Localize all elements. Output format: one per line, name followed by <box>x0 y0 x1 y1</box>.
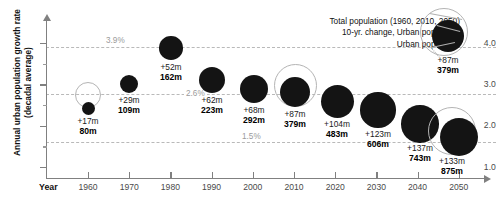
legend-sample-labels: +87m379m <box>418 55 478 75</box>
urban-population-bubble-1970[interactable] <box>120 75 138 93</box>
change-value-1990: +62m <box>182 95 242 105</box>
y-axis-title: Annual urban population growth rate (dec… <box>12 8 33 158</box>
x-tick-label-2030: 2030 <box>356 182 396 192</box>
y-tick <box>40 167 46 168</box>
change-value-2040: +137m <box>390 143 450 153</box>
urban-population-bubble-1980[interactable] <box>159 36 183 60</box>
urban-population-bubble-1960[interactable] <box>82 102 95 115</box>
x-tick-label-2050: 2050 <box>439 182 479 192</box>
total-value-1970: 109m <box>99 105 159 115</box>
x-tick <box>253 172 254 179</box>
change-value-2030: +123m <box>348 129 408 139</box>
y-axis-arrow-icon <box>43 14 51 21</box>
x-tick-label-1990: 1990 <box>192 182 232 192</box>
x-tick-label-1980: 1980 <box>150 182 190 192</box>
x-tick <box>376 172 377 179</box>
x-tick <box>212 172 213 179</box>
reference-line-label-1.5%: 1.5% <box>240 132 263 141</box>
data-label-1960: +17m80m <box>58 116 118 136</box>
y-tick <box>40 84 46 85</box>
legend-total-value: 379m <box>418 65 478 75</box>
total-value-2050: 875m <box>422 166 482 176</box>
data-label-1980: +52m162m <box>141 62 201 82</box>
urban-population-bubble-2020[interactable] <box>321 85 354 118</box>
total-value-1980: 162m <box>141 72 201 82</box>
y-tick-minor <box>43 64 47 65</box>
urban-population-bubble-1990[interactable] <box>199 67 225 93</box>
x-tick <box>170 172 171 179</box>
urban-population-bubble-2000[interactable] <box>240 75 269 104</box>
y-tick-minor <box>43 105 47 106</box>
y-tick <box>40 126 46 127</box>
y-tick <box>40 43 46 44</box>
y-tick-minor <box>43 146 47 147</box>
change-value-1970: +29m <box>99 95 159 105</box>
x-tick-label-1960: 1960 <box>68 182 108 192</box>
x-tick <box>129 172 130 179</box>
y-axis-line <box>46 20 47 179</box>
change-value-1960: +17m <box>58 116 118 126</box>
change-value-2010: +87m <box>265 109 325 119</box>
x-tick <box>294 172 295 179</box>
x-tick <box>335 172 336 179</box>
change-value-2020: +104m <box>307 119 367 129</box>
legend-change-value: +87m <box>418 55 478 65</box>
total-value-1960: 80m <box>58 126 118 136</box>
x-tick <box>88 172 89 179</box>
data-label-1970: +29m109m <box>99 95 159 115</box>
x-axis-line <box>46 178 486 179</box>
y-tick-label: 3.0 <box>462 79 496 89</box>
x-tick-label-2000: 2000 <box>233 182 273 192</box>
x-tick-label-1970: 1970 <box>109 182 149 192</box>
x-tick <box>418 172 419 179</box>
y-tick-label: 4.0 <box>462 38 496 48</box>
change-value-1980: +52m <box>141 62 201 72</box>
data-label-2050: +133m875m <box>422 156 482 176</box>
x-axis-title: Year <box>39 182 58 192</box>
x-tick-label-2020: 2020 <box>315 182 355 192</box>
change-value-2050: +133m <box>422 156 482 166</box>
x-axis-arrow-icon <box>484 175 491 183</box>
chart-canvas: Annual urban population growth rate (dec… <box>0 0 496 202</box>
reference-line-label-3.9%: 3.9% <box>104 36 127 45</box>
x-tick-label-2040: 2040 <box>398 182 438 192</box>
x-tick-label-2010: 2010 <box>274 182 314 192</box>
